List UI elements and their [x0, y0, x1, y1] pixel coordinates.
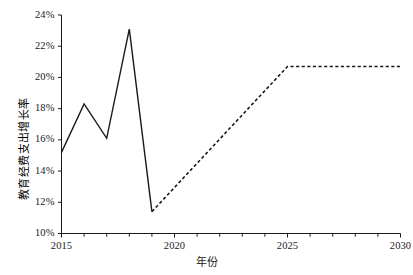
x-tick-label: 2015	[48, 241, 76, 252]
series-forecast-line	[152, 67, 401, 212]
x-tick-label: 2025	[274, 241, 302, 252]
y-tick-label: 20%	[35, 72, 55, 83]
x-tick-label: 2020	[161, 241, 189, 252]
y-tick-label: 24%	[35, 10, 55, 21]
x-axis-title: 年份	[0, 253, 413, 269]
chart-canvas	[0, 0, 413, 275]
y-axis-ticks	[58, 15, 62, 234]
y-tick-label: 18%	[35, 103, 55, 114]
y-tick-label: 16%	[35, 134, 55, 145]
y-tick-label: 12%	[35, 197, 55, 208]
y-tick-label: 22%	[35, 41, 55, 52]
y-axis-title-container: 教育经费支出增长率	[2, 0, 18, 248]
line-chart: 10%12%14%16%18%20%22%24% 201520202025203…	[0, 0, 413, 275]
y-axis-title: 教育经费支出增长率	[15, 97, 31, 200]
y-tick-label: 10%	[35, 228, 55, 239]
x-tick-label: 2030	[387, 241, 413, 252]
series-historical-line	[62, 29, 152, 212]
y-tick-label: 14%	[35, 166, 55, 177]
x-axis-ticks	[62, 234, 401, 238]
